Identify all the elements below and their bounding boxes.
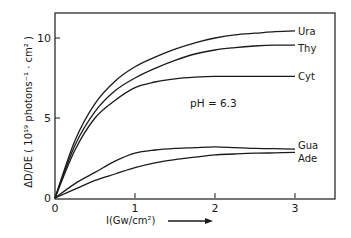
curves bbox=[55, 31, 295, 198]
x-tick-label: 0 bbox=[52, 202, 59, 215]
right-arrow-icon bbox=[168, 218, 213, 224]
curve-cyt bbox=[55, 76, 295, 198]
x-tick-label: 1 bbox=[132, 202, 139, 215]
axis-ticks: 01230510 bbox=[37, 32, 299, 215]
curve-label-cyt: Cyt bbox=[298, 71, 315, 82]
y-axis-title: ΔD/DE ( 10¹⁹ photons⁻¹ · cm² ) bbox=[23, 36, 34, 188]
curve-gua bbox=[55, 147, 295, 198]
curve-label-ade: Ade bbox=[298, 153, 317, 164]
x-tick-label: 2 bbox=[212, 202, 219, 215]
curve-label-ura: Ura bbox=[298, 26, 316, 37]
y-tick-label: 10 bbox=[37, 32, 51, 45]
curve-label-thy: Thy bbox=[297, 43, 316, 54]
y-tick-label: 5 bbox=[44, 112, 51, 125]
curve-labels: UraThyCytGuaAde bbox=[297, 26, 318, 165]
ph-annotation: pH = 6.3 bbox=[190, 97, 237, 109]
curve-ura bbox=[55, 31, 295, 198]
chart: 01230510 UraThyCytGuaAde pH = 6.3 ΔD/DE … bbox=[0, 0, 351, 238]
x-tick-label: 3 bbox=[292, 202, 299, 215]
x-axis-title: I(Gw/cm²) bbox=[106, 215, 155, 226]
y-tick-label: 0 bbox=[44, 192, 51, 205]
curve-label-gua: Gua bbox=[298, 140, 318, 151]
